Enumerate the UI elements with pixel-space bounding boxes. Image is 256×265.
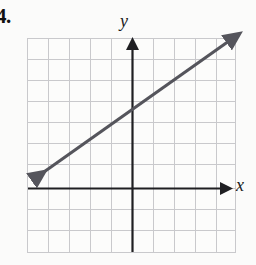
coordinate-plane-svg [0, 0, 256, 265]
y-axis-label: y [120, 12, 128, 30]
x-axis-label: x [236, 176, 244, 194]
worksheet-page: 4. [0, 0, 256, 265]
coordinate-plane-figure: y x [0, 0, 256, 265]
